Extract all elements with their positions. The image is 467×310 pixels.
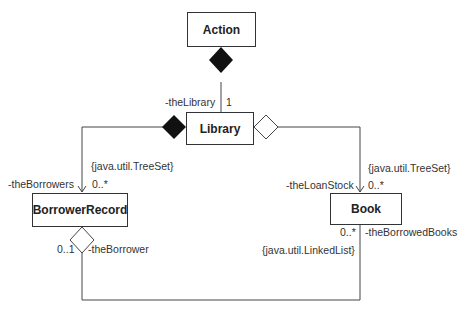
class-action: Action	[187, 12, 256, 47]
role-the-loan-stock: -theLoanStock	[286, 179, 354, 191]
mult-borrower: 0..1	[57, 243, 75, 255]
aggregation-diamond-library-right	[254, 115, 278, 139]
class-borrower-record-name: BorrowerRecord	[33, 203, 128, 217]
constraint-loan-stock: {java.util.TreeSet}	[368, 162, 451, 174]
role-the-borrowed-books: -theBorrowedBooks	[365, 226, 457, 238]
mult-the-library: 1	[226, 96, 232, 108]
class-library: Library	[186, 112, 254, 145]
composition-diamond-action	[209, 47, 233, 73]
class-book-name: Book	[351, 202, 381, 216]
mult-borrowed-books: 0..*	[340, 226, 356, 238]
class-book: Book	[330, 193, 402, 225]
class-library-name: Library	[200, 122, 241, 136]
role-the-borrowers: -theBorrowers	[8, 178, 74, 190]
mult-loan-stock: 0..*	[368, 179, 384, 191]
role-the-library: -theLibrary	[165, 96, 215, 108]
class-borrower-record: BorrowerRecord	[32, 193, 128, 227]
role-the-borrower: -theBorrower	[88, 243, 149, 255]
class-action-name: Action	[203, 23, 240, 37]
composition-diamond-library-left	[162, 115, 186, 139]
constraint-borrowers: {java.util.TreeSet}	[91, 160, 174, 172]
mult-borrowers: 0..*	[92, 178, 108, 190]
constraint-borrowed-books: {java.util.LinkedList}	[262, 244, 355, 256]
